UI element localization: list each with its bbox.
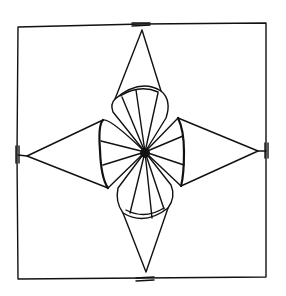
kite-left-stem xyxy=(18,155,27,156)
petal-right xyxy=(178,118,184,186)
kite-right xyxy=(178,118,258,186)
kite-left xyxy=(27,120,108,188)
petal-left xyxy=(99,120,108,188)
bottom-tab xyxy=(136,277,154,281)
flower-diagram xyxy=(0,0,286,296)
center-dot xyxy=(140,148,150,158)
petal-top-arc xyxy=(120,89,158,96)
